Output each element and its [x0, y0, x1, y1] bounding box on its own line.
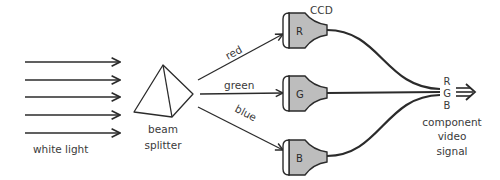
output-channel-b: B [444, 100, 451, 111]
component-video-label-line1: component [422, 116, 481, 128]
output-channel-r: R [444, 76, 451, 87]
output-triple-arrow-icon [456, 84, 475, 100]
component-video-label-line2: video [438, 130, 467, 142]
ccd-letter-r: R [296, 26, 303, 37]
beam-splitter-label-line2: splitter [145, 139, 183, 151]
red-cable [327, 30, 440, 89]
white-light-rays [25, 62, 120, 133]
red-beam-label: red [223, 43, 244, 62]
signal-cables [327, 30, 440, 156]
output-channel-g: G [443, 88, 451, 99]
ccd-sensor-green: G [283, 76, 327, 111]
ccd-letter-b: B [296, 153, 303, 164]
green-cable [327, 92, 440, 93]
red-beam [198, 34, 283, 80]
beam-splitter-pyramid-icon [134, 65, 193, 117]
beam-splitter-label-line1: beam [148, 123, 178, 135]
green-beam-label: green [224, 79, 254, 91]
white-light-label: white light [33, 143, 88, 155]
green-beam [200, 93, 283, 94]
ccd-sensor-red: R [283, 13, 327, 48]
component-video-label-line3: signal [436, 145, 467, 157]
ccd-sensor-blue: B [283, 140, 327, 175]
blue-beam-label: blue [233, 102, 259, 123]
ccd-label: CCD [310, 4, 333, 16]
beam-splitter-diagram: white light beam splitter red green blue… [0, 0, 500, 180]
ccd-letter-g: G [296, 89, 304, 100]
